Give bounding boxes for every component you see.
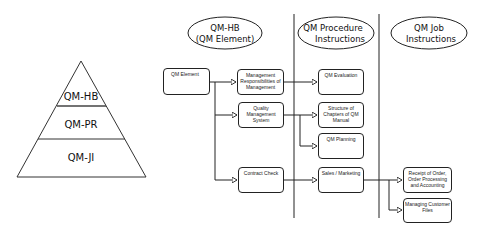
box-receipt-of-order: Receipt of Order, Order Processing and A… <box>403 167 452 193</box>
column-header-qm-hb-line2: (QM Element) <box>196 34 255 44</box>
column-header-qm-job-line2: Instructions <box>406 34 456 44</box>
box-contract-check: Contract Check <box>238 167 284 193</box>
column-header-qm-procedure: QM Procedure Instructions <box>298 17 374 49</box>
box-qm-evaluation: QM Evaluation <box>318 69 364 95</box>
column-header-qm-job-line1: QM Job <box>414 23 444 33</box>
box-quality-management-system: Quality Management System <box>238 102 284 128</box>
box-sales-marketing: Sales / Marketing <box>318 167 364 193</box>
column-header-qm-hb: QM-HB (QM Element) <box>188 17 262 49</box>
column-header-qm-procedure-line2: Instructions <box>315 34 365 44</box>
column-header-qm-job: QM Job Instructions <box>391 17 467 49</box>
box-management-responsibilities: Management Responsibilities of Managemen… <box>237 69 284 95</box>
column-header-qm-hb-line1: QM-HB <box>210 23 239 33</box>
column-header-qm-procedure-line1: QM Procedure <box>303 23 362 33</box>
pyramid: QM-HB QM-PR QM-JI <box>17 61 146 177</box>
box-structure-of-chapters: Structure of Chapters of QM Manual <box>318 102 364 128</box>
box-qm-planning: QM Planning <box>318 133 364 159</box>
box-qm-element: QM Element <box>163 68 210 95</box>
pyramid-level-qm-pr: QM-PR <box>64 119 97 130</box>
box-managing-customer-files: Managing Customer Files <box>403 198 452 223</box>
pyramid-level-qm-hb: QM-HB <box>64 91 99 102</box>
pyramid-level-qm-ji: QM-JI <box>68 152 95 163</box>
